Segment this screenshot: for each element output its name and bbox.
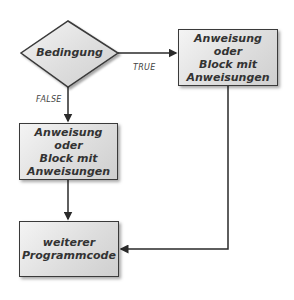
false-label: FALSE	[36, 95, 62, 104]
true-label: TRUE	[133, 63, 156, 72]
true-block-label: Anweisung oder Block mit Anweisungen	[179, 32, 277, 84]
true-to-end-arrow	[121, 86, 228, 249]
false-block: Anweisung oder Block mit Anweisungen	[19, 123, 118, 180]
end-block-label: weiterer Programmcode	[22, 236, 116, 262]
true-block: Anweisung oder Block mit Anweisungen	[178, 29, 278, 86]
decision-label: Bedingung	[21, 46, 118, 59]
end-block: weiterer Programmcode	[19, 221, 119, 277]
false-block-label: Anweisung oder Block mit Anweisungen	[20, 126, 117, 178]
